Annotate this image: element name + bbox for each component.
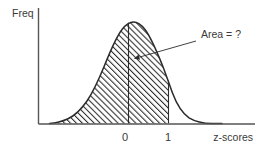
- normal-distribution-figure: Freq 0 1 z-scores Area = ?: [0, 0, 267, 149]
- area-question-annotation: Area = ?: [201, 28, 241, 40]
- x-tick-label-0: 0: [122, 131, 128, 143]
- y-axis-label: Freq: [12, 7, 34, 19]
- x-tick-label-1: 1: [165, 131, 171, 143]
- shaded-area-region: [50, 22, 169, 124]
- x-axis-label: z-scores: [213, 131, 253, 143]
- figure-canvas: Freq 0 1 z-scores Area = ?: [0, 0, 267, 149]
- shaded-area-fill: [50, 22, 169, 124]
